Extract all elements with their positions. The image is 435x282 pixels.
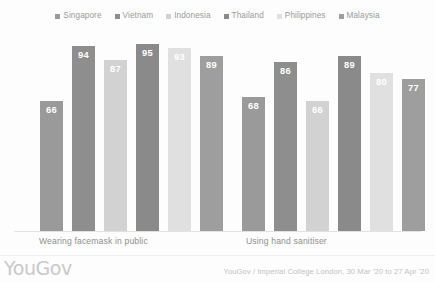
legend-item-indonesia[interactable]: Indonesia [166,12,210,20]
bar[interactable]: 94 [72,46,95,231]
bar-value-label: 66 [306,105,329,114]
legend-swatch-vietnam [115,14,120,19]
plot-area: 669487959389 688666898077 [14,34,421,232]
bar[interactable]: 68 [242,97,265,231]
bar[interactable]: 93 [168,48,191,231]
bar-value-label: 68 [242,101,265,110]
legend-item-malaysia[interactable]: Malaysia [339,12,380,20]
legend-label-philippines: Philippines [285,12,326,20]
bar-value-label: 89 [338,60,361,69]
legend-label-singapore: Singapore [63,12,101,20]
bar[interactable]: 77 [402,79,425,231]
bar[interactable]: 95 [136,44,159,231]
bar[interactable]: 87 [104,60,127,231]
legend-swatch-thailand [224,14,229,19]
chart-container: Singapore Vietnam Indonesia Thailand Phi… [0,0,435,282]
legend-item-thailand[interactable]: Thailand [224,12,264,20]
footer-divider [0,255,435,256]
bar-value-label: 93 [168,52,191,61]
legend-item-singapore[interactable]: Singapore [55,12,101,20]
bar-value-label: 86 [274,66,297,75]
bar-value-label: 77 [402,83,425,92]
bar[interactable]: 89 [200,56,223,231]
legend-label-thailand: Thailand [232,12,264,20]
legend-label-malaysia: Malaysia [347,12,380,20]
legend-swatch-malaysia [339,14,344,19]
bar-group-wearing-facemask-in-public: 669487959389 [40,34,223,231]
bar[interactable]: 86 [274,62,297,231]
bar-value-label: 66 [40,105,63,114]
legend-item-vietnam[interactable]: Vietnam [115,12,154,20]
bar-value-label: 89 [200,60,223,69]
bar[interactable]: 80 [370,73,393,231]
legend-item-philippines[interactable]: Philippines [277,12,326,20]
bar-value-label: 80 [370,77,393,86]
yougov-logo: YouGov [4,259,72,278]
category-label-1: Using hand sanitiser [246,236,327,246]
axis-baseline [14,231,421,232]
legend-swatch-philippines [277,14,282,19]
bar[interactable]: 66 [40,101,63,231]
bar[interactable]: 66 [306,101,329,231]
category-label-0: Wearing facemask in public [39,236,148,246]
legend-label-indonesia: Indonesia [174,12,210,20]
bar-value-label: 95 [136,48,159,57]
legend-swatch-indonesia [166,14,171,19]
bar-value-label: 87 [104,64,127,73]
legend-swatch-singapore [55,14,60,19]
bar[interactable]: 89 [338,56,361,231]
chart-legend: Singapore Vietnam Indonesia Thailand Phi… [0,12,435,20]
bar-value-label: 94 [72,50,95,59]
source-attribution: YouGov / Imperial College London, 30 Mar… [223,267,429,276]
legend-label-vietnam: Vietnam [123,12,154,20]
bar-group-using-hand-sanitiser: 688666898077 [242,34,425,231]
